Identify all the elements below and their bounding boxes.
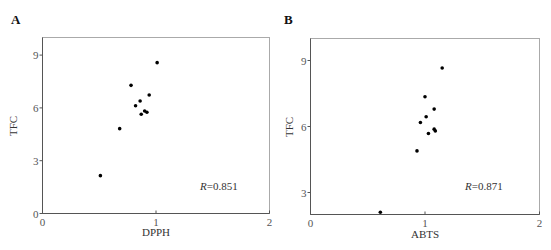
data-point bbox=[423, 95, 427, 99]
data-point bbox=[134, 104, 138, 108]
x-tick-label: 1 bbox=[422, 217, 428, 229]
data-point bbox=[440, 66, 444, 70]
plot-frame bbox=[311, 39, 540, 215]
data-point bbox=[424, 115, 428, 119]
data-point bbox=[434, 129, 438, 133]
y-tick-label: 3 bbox=[301, 187, 307, 199]
axis-ticks: 012369 bbox=[301, 55, 542, 229]
correlation-annotation: R=0.871 bbox=[464, 180, 503, 192]
y-tick-label: 0 bbox=[33, 208, 39, 220]
y-tick-label: 9 bbox=[301, 55, 307, 67]
x-tick-label: 2 bbox=[267, 216, 273, 228]
data-point bbox=[155, 61, 159, 65]
panel-a-label: A bbox=[11, 12, 21, 27]
x-axis-title: ABTS bbox=[411, 228, 439, 240]
data-point bbox=[99, 174, 103, 178]
data-point bbox=[419, 121, 423, 125]
y-tick-label: 6 bbox=[33, 102, 39, 114]
y-axis-title: TFC bbox=[283, 117, 295, 137]
data-point bbox=[138, 99, 142, 103]
data-point bbox=[415, 149, 419, 153]
r-value: =0.871 bbox=[472, 180, 503, 192]
panel-a-scatter: A 0120369 DPPH TFC R=0.851 bbox=[7, 12, 272, 238]
panel-b-scatter: B 012369 ABTS TFC R=0.871 bbox=[283, 12, 542, 240]
data-points bbox=[99, 61, 159, 178]
axis-ticks: 0120369 bbox=[33, 49, 272, 227]
correlation-annotation: R=0.851 bbox=[199, 180, 238, 192]
data-point bbox=[147, 93, 151, 97]
x-tick-label: 0 bbox=[40, 216, 46, 228]
x-axis-title: DPPH bbox=[142, 226, 170, 238]
y-axis-title: TFC bbox=[7, 116, 19, 136]
y-tick-label: 3 bbox=[33, 155, 39, 167]
y-tick-label: 6 bbox=[301, 121, 307, 133]
data-point bbox=[427, 132, 431, 136]
data-point bbox=[129, 84, 133, 88]
y-tick-label: 9 bbox=[33, 49, 39, 61]
x-tick-label: 0 bbox=[308, 217, 314, 229]
data-point bbox=[139, 112, 143, 116]
r-value: =0.851 bbox=[207, 180, 238, 192]
panel-b-label: B bbox=[284, 12, 293, 27]
x-tick-label: 2 bbox=[537, 217, 543, 229]
figure: A 0120369 DPPH TFC R=0.851 B 012369 ABTS… bbox=[0, 0, 551, 250]
data-point bbox=[379, 211, 383, 215]
data-point bbox=[118, 127, 122, 131]
data-point bbox=[145, 111, 149, 115]
data-points bbox=[379, 66, 444, 214]
data-point bbox=[432, 107, 436, 111]
